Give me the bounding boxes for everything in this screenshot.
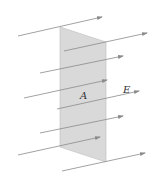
field-label: E — [122, 84, 131, 95]
area-label: A — [79, 90, 87, 101]
flux-diagram: A E — [0, 0, 162, 185]
